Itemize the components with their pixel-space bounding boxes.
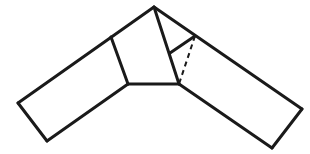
edge-line: [154, 7, 179, 84]
folded-strip-diagram: [0, 0, 310, 154]
edge-line: [111, 37, 128, 84]
edge-line: [272, 109, 302, 148]
solid-lines: [18, 7, 302, 148]
edge-line: [18, 7, 154, 103]
edge-line: [18, 103, 47, 141]
edge-line: [179, 84, 272, 148]
edge-line: [47, 84, 128, 141]
edge-line: [154, 7, 302, 109]
